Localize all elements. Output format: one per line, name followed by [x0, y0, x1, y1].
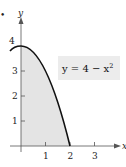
x-axis-arrow-icon: [114, 144, 121, 149]
y-tick-3: 3: [12, 66, 18, 76]
y-tick-1: 1: [12, 116, 18, 126]
y-axis-label: y: [17, 8, 24, 18]
x-tick-1: 1: [43, 151, 49, 161]
x-tick-3: 3: [92, 151, 98, 161]
y-tick-4: 4: [9, 36, 15, 46]
y-axis-arrow-icon: [19, 17, 24, 24]
x-tick-2: 2: [68, 151, 74, 161]
y-tick-2: 2: [12, 91, 18, 101]
equation-label: y = 4 − x2: [61, 62, 113, 74]
chart: • x y 1 2 3 1 2 3 4 y = 4 − x2: [0, 0, 126, 167]
x-axis-label: x: [122, 141, 126, 151]
bullet-mark: •: [0, 10, 5, 20]
